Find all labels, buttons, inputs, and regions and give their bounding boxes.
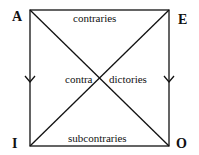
relation-contradictories-left: contra <box>65 74 92 85</box>
corner-label-i: I <box>12 137 17 151</box>
corner-label-a: A <box>12 10 22 24</box>
corner-label-e: E <box>178 13 187 27</box>
relation-subcontraries: subcontraries <box>68 133 127 144</box>
relation-contradictories-right: dictories <box>109 74 147 85</box>
corner-label-o: O <box>176 137 187 151</box>
relation-contraries: contraries <box>73 13 116 24</box>
